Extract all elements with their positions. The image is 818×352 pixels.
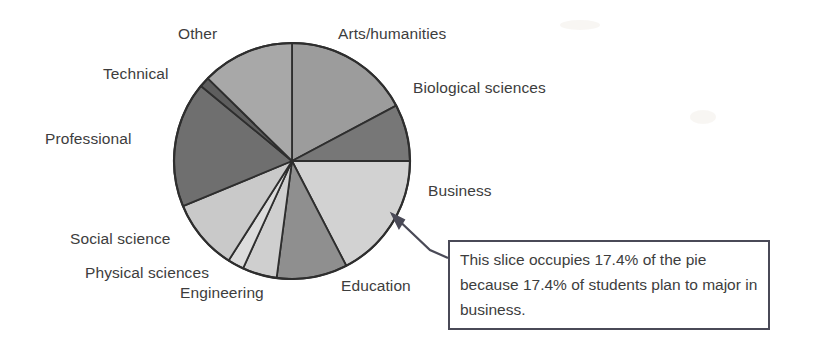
callout-leader-line	[392, 214, 448, 258]
pie-label-engineering: Engineering	[180, 285, 264, 301]
pie-label-physical: Physical sciences	[85, 265, 209, 281]
pie-label-education: Education	[341, 278, 411, 294]
pie-label-technical: Technical	[103, 66, 169, 82]
callout-box: This slice occupies 17.4% of the pie bec…	[448, 240, 770, 330]
pie-label-biological: Biological sciences	[413, 80, 546, 96]
pie-label-social: Social science	[70, 231, 170, 247]
pie-label-arts: Arts/humanities	[338, 26, 446, 42]
callout-text: This slice occupies 17.4% of the pie bec…	[460, 247, 762, 322]
pie-label-professional: Professional	[45, 131, 132, 147]
pie-chart-figure: Other Arts/humanities Technical Biologic…	[0, 0, 818, 352]
pie-label-business: Business	[428, 183, 492, 199]
pie-slices	[174, 43, 410, 279]
pie-label-other: Other	[178, 26, 217, 42]
